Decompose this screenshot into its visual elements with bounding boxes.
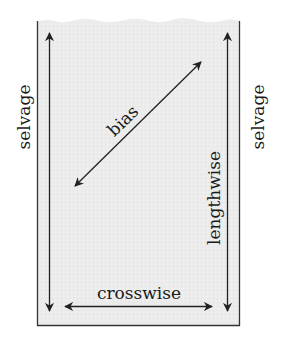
selvage-left-label: selvage: [14, 85, 34, 150]
lengthwise-label: lengthwise: [204, 151, 224, 245]
crosswise-label: crosswise: [97, 283, 181, 303]
selvage-right-label: selvage: [248, 85, 268, 150]
fabric-grain-diagram: selvage selvage lengthwise bias crosswis…: [0, 0, 282, 348]
